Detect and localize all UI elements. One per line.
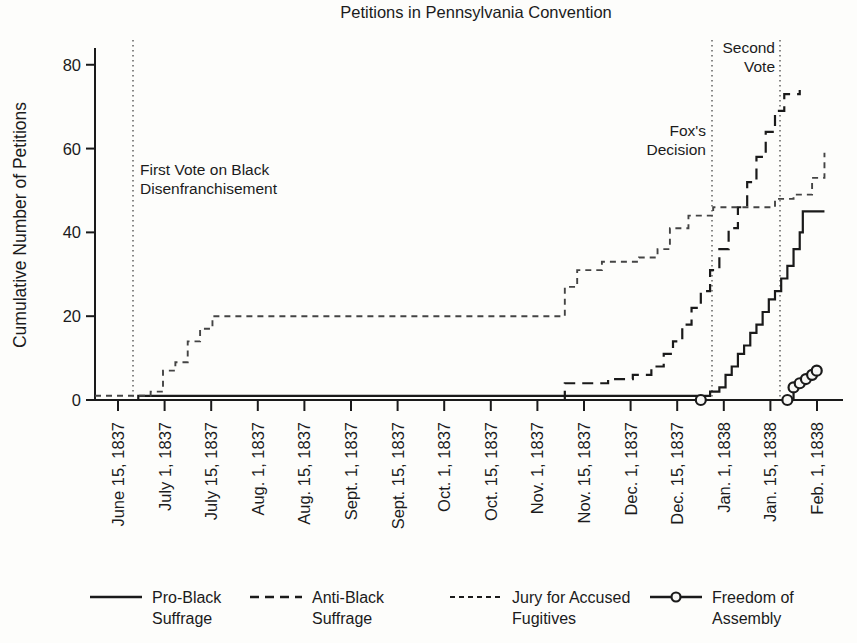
svg-text:Dec. 15, 1837: Dec. 15, 1837 [668,422,686,525]
legend-item-2: Jury for AccusedFugitives [450,589,630,627]
svg-text:Sept. 1, 1837: Sept. 1, 1837 [342,422,360,520]
annotation-second-vote-line1: Second [722,39,775,56]
chart-title: Petitions in Pennsylvania Convention [340,3,612,21]
series-marker [696,395,706,405]
x-axis-ticks [118,400,817,411]
svg-text:Assembly: Assembly [712,610,781,627]
series-line-0 [95,211,824,400]
svg-text:July 1, 1837: July 1, 1837 [156,422,174,511]
svg-text:Suffrage: Suffrage [152,610,212,627]
svg-text:Dec. 1, 1837: Dec. 1, 1837 [622,422,640,516]
annotation-vertical-lines [133,40,780,400]
series-marker [782,395,792,405]
svg-text:Nov. 1, 1837: Nov. 1, 1837 [528,422,546,514]
annotation-fox-decision-line2: Decision [647,141,706,158]
svg-text:Jan. 1, 1838: Jan. 1, 1838 [715,422,733,513]
svg-text:40: 40 [63,223,81,241]
svg-text:Feb. 1, 1838: Feb. 1, 1838 [808,422,826,515]
svg-text:Aug. 1, 1837: Aug. 1, 1837 [249,422,267,516]
annotation-first-vote-line1: First Vote on Black [140,161,269,178]
chart-svg: Petitions in Pennsylvania Convention Cum… [0,0,857,643]
annotation-first-vote-line2: Disenfranchisement [140,180,278,197]
svg-text:0: 0 [72,391,81,409]
svg-text:Suffrage: Suffrage [312,610,372,627]
x-axis-tick-labels: June 15, 1837July 1, 1837July 15, 1837Au… [109,422,826,529]
svg-text:Oct. 15, 1837: Oct. 15, 1837 [482,422,500,521]
svg-text:July 15, 1837: July 15, 1837 [202,422,220,520]
svg-text:Freedom of: Freedom of [712,589,794,606]
chart-figure: Petitions in Pennsylvania Convention Cum… [0,0,857,643]
svg-text:Aug. 15, 1837: Aug. 15, 1837 [295,422,313,525]
legend-item-0: Pro-BlackSuffrage [90,589,222,627]
legend-item-3: Freedom ofAssembly [650,589,794,627]
svg-text:Pro-Black: Pro-Black [152,589,222,606]
svg-text:June 15, 1837: June 15, 1837 [109,422,127,527]
svg-text:Nov. 15, 1837: Nov. 15, 1837 [575,422,593,524]
svg-text:Sept. 15, 1837: Sept. 15, 1837 [389,422,407,529]
svg-text:Jury for Accused: Jury for Accused [512,589,630,606]
chart-legend: Pro-BlackSuffrageAnti-BlackSuffrageJury … [90,589,794,627]
series-marker [812,366,822,376]
annotation-fox-decision-line1: Fox's [669,122,706,139]
svg-text:Fugitives: Fugitives [512,610,576,627]
svg-text:Jan. 15, 1838: Jan. 15, 1838 [761,422,779,522]
y-axis-label: Cumulative Number of Petitions [10,102,30,348]
svg-text:80: 80 [63,56,81,74]
y-axis-ticks: 020406080 [63,56,95,409]
svg-text:60: 60 [63,140,81,158]
annotation-second-vote-line2: Vote [744,58,775,75]
svg-text:Oct. 1, 1837: Oct. 1, 1837 [435,422,453,512]
svg-text:Anti-Black: Anti-Black [312,589,385,606]
legend-item-1: Anti-BlackSuffrage [250,589,385,627]
svg-text:20: 20 [63,307,81,325]
chart-series-group [95,90,824,405]
